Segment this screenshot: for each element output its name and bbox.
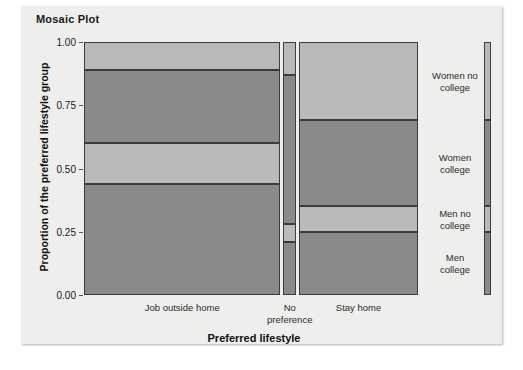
y-axis-tick-labels: 1.000.750.500.250.00 [44,42,76,295]
y-axis-tick-label: 0.25 [44,226,76,237]
mosaic-cell[interactable] [283,75,296,224]
y-axis-tick-label: 1.00 [44,37,76,48]
mosaic-cell[interactable] [283,224,296,242]
y-axis-tick-mark [79,42,83,43]
y-axis-tick-label: 0.50 [44,163,76,174]
mosaic-cell[interactable] [84,143,280,183]
legend-label: Men college [428,252,482,275]
legend-label: Men no college [428,208,482,231]
mosaic-cell[interactable] [283,242,296,295]
mosaic-cell[interactable] [299,120,418,206]
mosaic-column[interactable] [299,42,418,295]
mosaic-cell[interactable] [299,206,418,231]
y-axis-tick-label: 0.00 [44,290,76,301]
mosaic-column[interactable] [84,42,280,295]
legend-color-strip [484,42,491,295]
mosaic-cell[interactable] [84,184,280,295]
y-axis-tick-label: 0.75 [44,100,76,111]
mosaic-cell[interactable] [283,42,296,75]
x-axis-tick-label: Job outside home [84,302,280,314]
mosaic-cell[interactable] [299,42,418,120]
legend-label: Women college [428,152,482,175]
legend-swatch [484,206,491,231]
legend-swatch [484,42,491,120]
mosaic-plot-figure: Mosaic Plot Proportion of the preferred … [0,0,523,370]
x-axis-tick-label: Stay home [299,302,418,314]
mosaic-cell[interactable] [299,232,418,295]
legend-swatch [484,232,491,295]
mosaic-plot-area [84,42,424,295]
mosaic-cell[interactable] [84,42,280,70]
mosaic-column[interactable] [283,42,296,295]
legend-swatch [484,120,491,206]
y-axis-tick-mark [79,232,83,233]
legend-labels: Women no collegeWomen collegeMen no coll… [428,42,482,295]
legend-label: Women no college [428,70,482,93]
x-axis-title: Preferred lifestyle [84,332,424,344]
y-axis-tick-mark [79,105,83,106]
y-axis-tick-mark [79,169,83,170]
page-title: Mosaic Plot [36,13,99,25]
y-axis-tick-mark [79,295,83,296]
mosaic-cell[interactable] [84,70,280,143]
